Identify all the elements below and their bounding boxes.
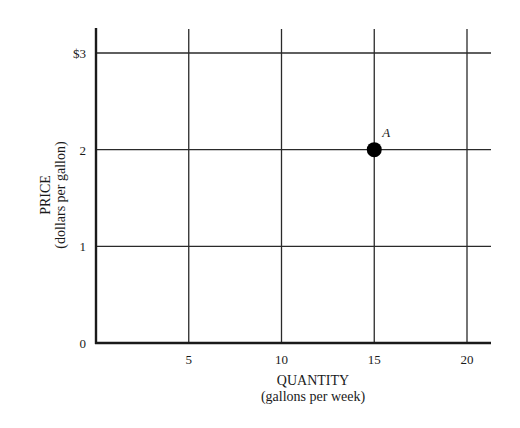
x-tick-label: 20	[461, 352, 474, 367]
y-tick-label: 2	[80, 143, 87, 158]
grid-lines	[96, 29, 491, 343]
x-tick-label: 15	[368, 352, 381, 367]
x-axis-title: QUANTITY	[277, 373, 349, 388]
x-tick-label: 10	[275, 352, 288, 367]
y-tick-labels: 012$3	[73, 46, 86, 351]
y-tick-label: 0	[80, 336, 87, 351]
point-label: A	[381, 125, 390, 140]
y-tick-label: $3	[73, 46, 86, 61]
x-tick-label: 5	[186, 352, 193, 367]
axes	[95, 28, 491, 344]
chart: 012$3 5101520 A QUANTITY (gallons per we…	[0, 0, 520, 428]
y-axis-subtitle: (dollars per gallon)	[53, 141, 69, 249]
data-points: A	[367, 125, 391, 158]
data-point-a	[367, 142, 382, 157]
y-tick-label: 1	[80, 239, 87, 254]
y-axis-title: PRICE	[38, 175, 53, 215]
x-tick-labels: 5101520	[186, 352, 474, 367]
x-axis-subtitle: (gallons per week)	[261, 389, 366, 405]
